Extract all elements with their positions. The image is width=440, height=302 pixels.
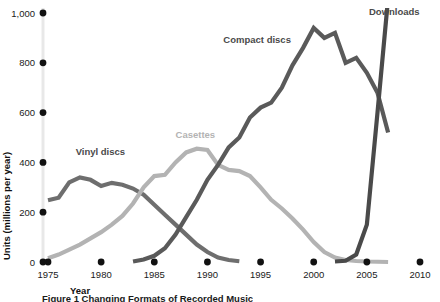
- x-tick-dot-1990: [204, 259, 211, 266]
- x-tick-label-2000: 2000: [303, 269, 324, 280]
- figure-caption: Figure 1 Changing Formats of Recorded Mu…: [42, 293, 253, 302]
- x-tick-dot-1985: [151, 259, 158, 266]
- y-tick-label-600: 600: [19, 107, 35, 118]
- x-tick-dot-2000: [310, 259, 317, 266]
- x-tick-label-2005: 2005: [356, 269, 377, 280]
- x-tick-dot-1995: [257, 259, 264, 266]
- y-tick-label-1000: 1,000: [11, 8, 35, 19]
- x-tick-dot-2010: [417, 259, 424, 266]
- series-label-compact-discs: Compact discs: [223, 34, 291, 45]
- x-tick-label-1985: 1985: [144, 269, 165, 280]
- x-tick-dot-2005: [363, 259, 370, 266]
- y-tick-label-0: 0: [30, 257, 35, 268]
- line-chart: 1975198019851990199520002005201002004006…: [0, 0, 440, 302]
- series-label-casettes: Casettes: [176, 129, 216, 140]
- x-tick-label-1975: 1975: [37, 269, 58, 280]
- x-tick-label-2010: 2010: [409, 269, 430, 280]
- y-tick-dot-0: [40, 259, 47, 266]
- series-line-compact-discs: [133, 28, 388, 262]
- y-tick-dot-1000: [40, 10, 47, 17]
- y-tick-dot-600: [40, 109, 47, 116]
- x-tick-label-1980: 1980: [91, 269, 112, 280]
- x-tick-label-1990: 1990: [197, 269, 218, 280]
- chart-container: 1975198019851990199520002005201002004006…: [0, 0, 440, 302]
- y-tick-dot-800: [40, 59, 47, 66]
- series-label-downloads: Downloads: [369, 6, 420, 17]
- y-axis-title: Units (millions per year): [1, 152, 12, 260]
- y-tick-label-800: 800: [19, 57, 35, 68]
- x-tick-label-1995: 1995: [250, 269, 271, 280]
- y-tick-dot-400: [40, 159, 47, 166]
- x-tick-dot-1980: [98, 259, 105, 266]
- plot-area: [48, 0, 388, 262]
- y-tick-label-200: 200: [19, 207, 35, 218]
- series-line-downloads: [335, 0, 388, 262]
- y-tick-dot-200: [40, 209, 47, 216]
- y-tick-label-400: 400: [19, 157, 35, 168]
- series-label-vinyl-discs: Vinyl discs: [76, 146, 125, 157]
